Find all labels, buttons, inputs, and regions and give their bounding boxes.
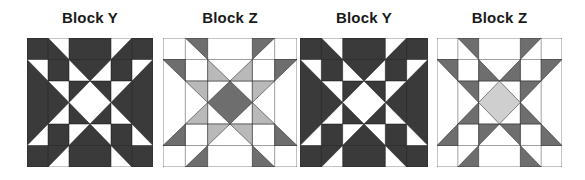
- block-y-pattern: [300, 38, 428, 167]
- block-z-pattern: [437, 38, 562, 167]
- block-y-pattern: [27, 38, 153, 167]
- block-title: Block Y: [27, 9, 153, 26]
- block-title: Block Y: [300, 9, 428, 26]
- block-z-pattern: [163, 38, 297, 167]
- block-title: Block Z: [163, 9, 297, 26]
- block-title: Block Z: [437, 9, 562, 26]
